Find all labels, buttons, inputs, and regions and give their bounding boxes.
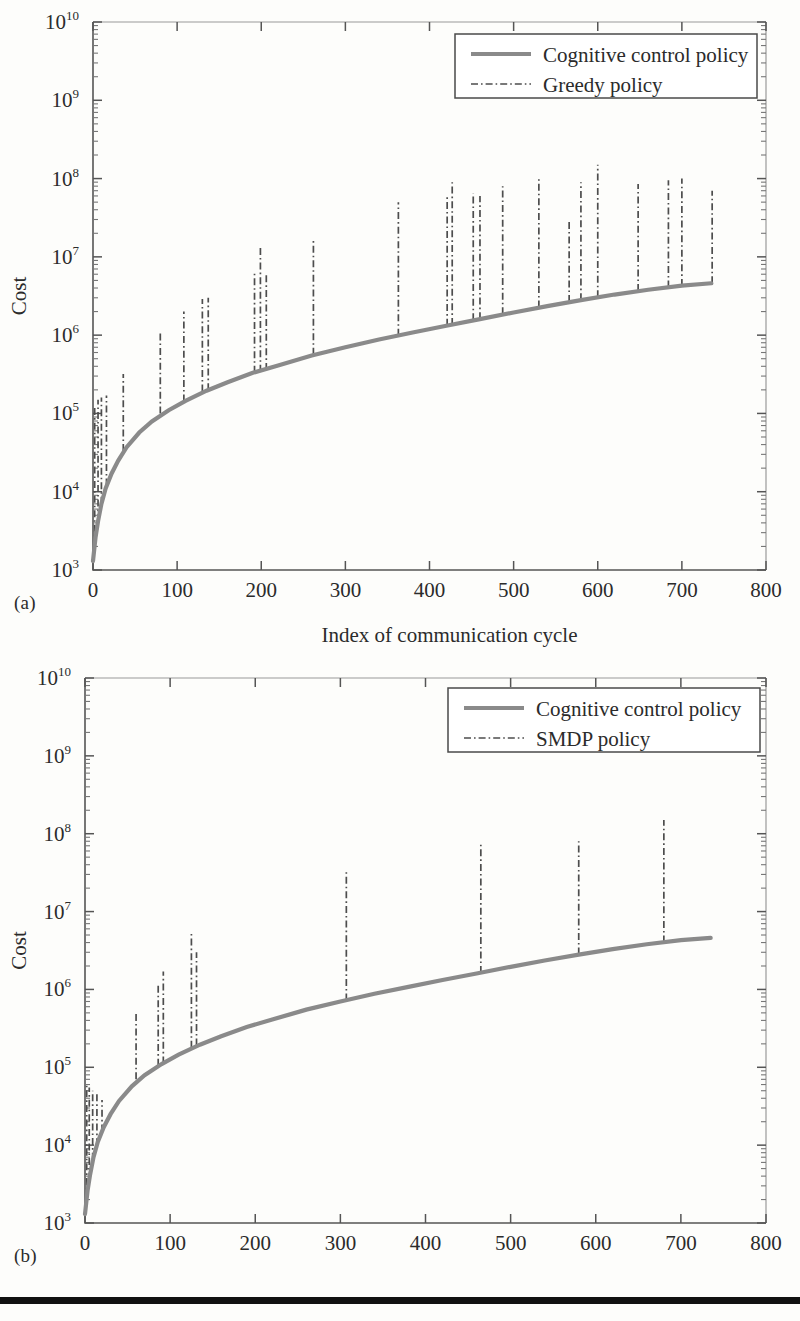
legend-label: Greedy policy xyxy=(543,73,663,97)
x-tick-label: 0 xyxy=(80,1231,91,1255)
y-tick-label: 108 xyxy=(44,820,72,846)
chart-b-svg: 1031041051061071081091010010020030040050… xyxy=(0,656,800,1256)
y-tick-label: 105 xyxy=(44,1053,72,1079)
x-tick-label: 100 xyxy=(161,578,193,602)
y-tick-label: 106 xyxy=(52,321,80,347)
chart-a-svg: 1031041051061071081091010010020030040050… xyxy=(0,0,800,660)
x-tick-label: 600 xyxy=(580,1231,612,1255)
chart-panel-b: 1031041051061071081091010010020030040050… xyxy=(0,656,800,1256)
x-tick-label: 800 xyxy=(750,578,782,602)
y-tick-label: 103 xyxy=(44,1209,72,1235)
cognitive-control-curve xyxy=(93,283,711,561)
spike-group xyxy=(95,165,712,547)
legend: Cognitive control policyGreedy policy xyxy=(455,34,757,98)
x-tick-label: 400 xyxy=(414,578,446,602)
legend-label: Cognitive control policy xyxy=(543,43,749,67)
x-tick-label: 600 xyxy=(582,578,614,602)
x-tick-label: 100 xyxy=(154,1231,186,1255)
x-axis-title: Index of communication cycle xyxy=(322,623,578,647)
legend: Cognitive control policySMDP policy xyxy=(448,688,760,752)
cognitive-control-curve xyxy=(85,938,711,1214)
y-tick-label: 104 xyxy=(52,478,80,504)
x-tick-label: 200 xyxy=(240,1231,272,1255)
panel-caption-a: (a) xyxy=(14,592,36,614)
panel-caption-b: (b) xyxy=(14,1245,37,1267)
x-tick-label: 300 xyxy=(325,1231,357,1255)
page-bottom-rule xyxy=(0,1297,800,1304)
y-tick-label: 106 xyxy=(44,975,72,1001)
x-tick-label: 700 xyxy=(666,578,698,602)
x-tick-label: 700 xyxy=(665,1231,697,1255)
y-tick-label: 107 xyxy=(44,898,72,924)
y-tick-label: 109 xyxy=(52,86,80,112)
figure-container: 1031041051061071081091010010020030040050… xyxy=(0,0,800,1321)
y-tick-label: 108 xyxy=(52,165,80,191)
y-tick-label: 103 xyxy=(52,556,80,582)
x-tick-label: 800 xyxy=(750,1231,782,1255)
spike-group xyxy=(87,820,664,1200)
y-axis-title: Cost xyxy=(7,931,31,970)
chart-panel-a: 1031041051061071081091010010020030040050… xyxy=(0,0,800,660)
x-tick-label: 0 xyxy=(88,578,99,602)
y-tick-label: 1010 xyxy=(37,664,71,690)
y-tick-label: 109 xyxy=(44,742,72,768)
x-tick-label: 200 xyxy=(246,578,278,602)
x-tick-label: 500 xyxy=(495,1231,527,1255)
y-tick-label: 105 xyxy=(52,399,80,425)
x-tick-label: 400 xyxy=(410,1231,442,1255)
x-tick-label: 500 xyxy=(498,578,530,602)
y-tick-label: 104 xyxy=(44,1131,72,1157)
x-tick-label: 300 xyxy=(330,578,362,602)
y-tick-label: 1010 xyxy=(45,8,79,34)
y-axis-title: Cost xyxy=(7,277,31,316)
legend-label: Cognitive control policy xyxy=(536,697,742,721)
legend-label: SMDP policy xyxy=(536,727,651,751)
y-tick-label: 107 xyxy=(52,243,80,269)
